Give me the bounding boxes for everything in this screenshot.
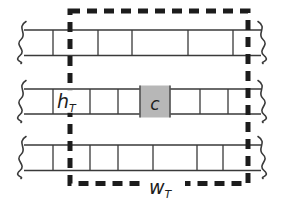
torn-edge-right-icon	[258, 137, 266, 179]
torn-edge-right-icon	[258, 22, 266, 64]
strip-borders	[24, 30, 261, 56]
cell-dividers	[53, 145, 223, 171]
diagram-figure: c hT wT	[0, 0, 284, 206]
cell-height-label-base: h	[57, 90, 69, 112]
torn-edge-right-icon	[258, 81, 266, 123]
window-width-label-base: w	[149, 176, 165, 198]
window-width-label-group: wT	[146, 176, 185, 201]
torn-edge-left-icon	[18, 22, 26, 64]
highlighted-cell-group: c	[140, 86, 171, 118]
tape-row-top	[18, 22, 267, 64]
torn-edge-left-icon	[18, 137, 26, 179]
cell-dividers	[53, 30, 233, 56]
torn-edge-left-icon	[18, 81, 26, 123]
cell-height-label-group: hT	[54, 90, 89, 115]
tape-row-bottom	[18, 137, 267, 179]
diagram-canvas: c hT wT	[0, 0, 284, 206]
highlighted-cell-label: c	[150, 94, 160, 114]
strip-borders	[24, 145, 261, 171]
